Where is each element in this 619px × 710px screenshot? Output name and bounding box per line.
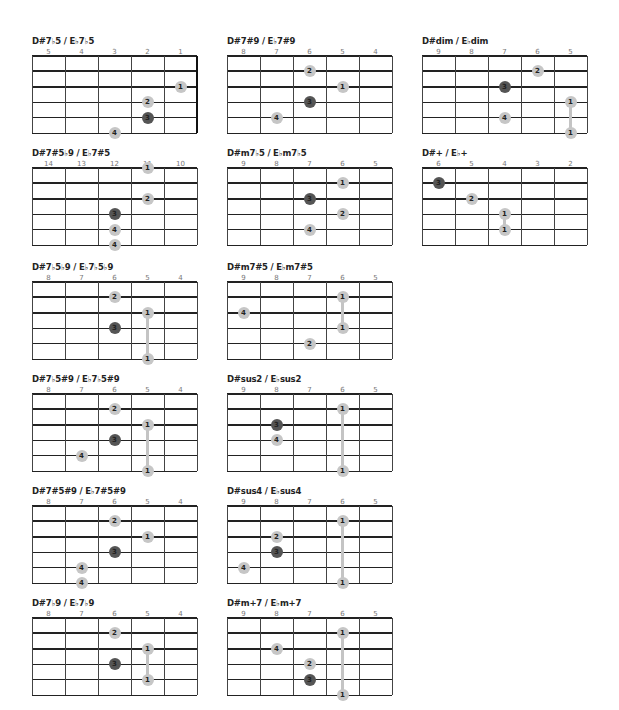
string-line xyxy=(32,424,197,426)
finger-dot: 4 xyxy=(271,434,283,446)
fret-line xyxy=(326,56,327,133)
fret-line xyxy=(65,506,66,583)
fret-line xyxy=(32,282,33,359)
fret-line xyxy=(554,168,555,245)
fret-line xyxy=(197,168,198,245)
string-line xyxy=(227,536,392,538)
fret-line xyxy=(554,56,555,133)
finger-dot: 1 xyxy=(142,643,154,655)
finger-dot: 3 xyxy=(499,81,511,93)
string-line xyxy=(32,455,197,456)
fret-line xyxy=(521,168,522,245)
string-line xyxy=(227,505,392,507)
finger-dot: 1 xyxy=(337,291,349,303)
string-line xyxy=(227,245,392,246)
fret-line xyxy=(131,394,132,471)
string-line xyxy=(422,102,587,103)
string-line xyxy=(422,133,587,134)
finger-dot: 1 xyxy=(337,322,349,334)
chord-diagram: D#+ / E♭+654323211 xyxy=(422,148,592,258)
finger-dot: 4 xyxy=(109,239,121,251)
string-line xyxy=(32,86,197,88)
chord-title: D#sus2 / E♭sus2 xyxy=(227,374,301,384)
chord-title: D#7#5♭9 / E♭7#5 xyxy=(32,148,110,158)
finger-dot: 1 xyxy=(337,515,349,527)
chord-title: D#7♭5♭9 / E♭7♭5♭9 xyxy=(32,262,113,272)
fret-line xyxy=(65,168,66,245)
chord-diagram: D#sus2 / E♭sus2987651341 xyxy=(227,374,397,484)
finger-dot: 1 xyxy=(337,689,349,701)
fret-line xyxy=(488,56,489,133)
chord-title: D#m+7 / E♭m+7 xyxy=(227,598,301,608)
finger-dot: 3 xyxy=(433,177,445,189)
string-line xyxy=(227,167,392,169)
fret-line xyxy=(98,506,99,583)
finger-dot: 1 xyxy=(142,674,154,686)
nut-line xyxy=(196,56,198,133)
string-line xyxy=(422,167,587,169)
finger-dot: 3 xyxy=(109,546,121,558)
finger-dot: 1 xyxy=(337,627,349,639)
fret-line xyxy=(65,282,66,359)
finger-dot: 1 xyxy=(142,307,154,319)
string-line xyxy=(32,167,197,169)
fret-line xyxy=(65,56,66,133)
fretboard-grid: 1341 xyxy=(227,394,392,471)
finger-dot: 2 xyxy=(109,403,121,415)
finger-dot: 1 xyxy=(142,465,154,477)
fret-line xyxy=(392,618,393,695)
fret-line xyxy=(326,282,327,359)
fret-line xyxy=(164,56,165,133)
finger-dot: 3 xyxy=(271,546,283,558)
fret-line xyxy=(164,168,165,245)
string-line xyxy=(227,328,392,329)
string-line xyxy=(32,567,197,568)
chord-diagram: D#7♭5 / E♭7♭5543211234 xyxy=(32,36,202,146)
barre-line xyxy=(341,409,344,471)
fretboard-grid: 12344 xyxy=(32,168,197,245)
finger-dot: 4 xyxy=(76,577,88,589)
fret-line xyxy=(32,618,33,695)
fret-line xyxy=(359,394,360,471)
fretboard-grid: 1324 xyxy=(227,168,392,245)
finger-dot: 3 xyxy=(304,674,316,686)
fretboard-grid: 2134 xyxy=(227,56,392,133)
finger-dot: 4 xyxy=(109,224,121,236)
string-line xyxy=(227,455,392,456)
chord-diagram: D#7#5♭9 / E♭7#5141312111012344 xyxy=(32,148,202,258)
fret-line xyxy=(98,282,99,359)
finger-dot: 3 xyxy=(304,96,316,108)
chord-diagram: D#7♭5#9 / E♭7♭5#98765421341 xyxy=(32,374,202,484)
string-line xyxy=(227,133,392,134)
fretboard-grid: 21344 xyxy=(32,506,197,583)
fret-line xyxy=(359,618,360,695)
fretboard-grid: 3211 xyxy=(422,168,587,245)
chord-diagram: D#m+7 / E♭m+79876514231 xyxy=(227,598,397,708)
string-line xyxy=(32,471,197,472)
string-line xyxy=(32,617,197,619)
fret-line xyxy=(260,282,261,359)
string-line xyxy=(32,70,197,72)
fret-line xyxy=(359,506,360,583)
chord-title: D#7♭5 / E♭7♭5 xyxy=(32,36,94,46)
fret-line xyxy=(587,56,588,133)
string-line xyxy=(32,198,197,200)
finger-dot: 4 xyxy=(499,112,511,124)
fret-line xyxy=(260,394,261,471)
string-line xyxy=(227,632,392,634)
fret-line xyxy=(227,56,228,133)
fret-line xyxy=(455,56,456,133)
string-line xyxy=(32,55,197,57)
string-line xyxy=(32,359,197,360)
string-line xyxy=(32,679,197,680)
finger-dot: 1 xyxy=(337,465,349,477)
fret-line xyxy=(227,506,228,583)
fret-line xyxy=(131,282,132,359)
finger-dot: 4 xyxy=(271,112,283,124)
fret-line xyxy=(164,618,165,695)
fretboard-grid: 14231 xyxy=(227,618,392,695)
string-line xyxy=(32,312,197,314)
finger-dot: 1 xyxy=(142,162,154,174)
string-line xyxy=(32,182,197,184)
finger-dot: 4 xyxy=(271,643,283,655)
